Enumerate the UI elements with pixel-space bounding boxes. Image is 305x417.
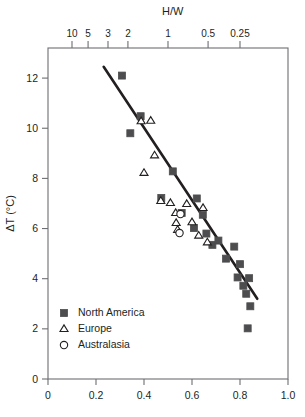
data-point <box>203 230 210 237</box>
top-tick-label: 3 <box>105 28 111 39</box>
y-tick-label: 10 <box>26 122 38 134</box>
x-tick-label: 0.6 <box>185 389 200 401</box>
data-point <box>246 275 253 282</box>
data-point <box>183 200 191 207</box>
data-point <box>188 218 196 225</box>
data-points <box>118 72 253 332</box>
data-point <box>147 117 155 124</box>
legend-label: Australasia <box>78 338 130 350</box>
legend-marker <box>61 310 68 317</box>
legend-marker <box>60 341 67 348</box>
top-axis-label: H/W <box>162 5 184 17</box>
x-tick-label: 0.8 <box>233 389 248 401</box>
top-tick-label: 5 <box>85 28 91 39</box>
chart-figure: H/W ΔT (°C) 1053210.50.25 00.20.40.60.81… <box>0 0 305 417</box>
data-point <box>166 199 174 206</box>
top-tick-label: 0.5 <box>201 28 215 39</box>
top-tick-label: 10 <box>66 28 78 39</box>
x-tick-label: 0.4 <box>137 389 152 401</box>
data-point <box>151 151 159 158</box>
top-tick-label: 2 <box>125 28 131 39</box>
data-point <box>237 261 244 268</box>
data-point <box>223 255 230 262</box>
data-point <box>195 231 203 238</box>
data-point <box>234 274 241 281</box>
data-point <box>177 210 184 217</box>
data-point <box>118 72 125 79</box>
y-tick-label: 0 <box>32 373 38 385</box>
x-axis-ticks: 00.20.40.60.81.0 <box>45 379 295 401</box>
legend-label: Europe <box>78 322 112 334</box>
x-tick-label: 0 <box>45 389 51 401</box>
data-point <box>199 211 206 218</box>
data-point <box>243 290 250 297</box>
data-point <box>169 168 176 175</box>
scatter-plot-svg: H/W ΔT (°C) 1053210.50.25 00.20.40.60.81… <box>0 0 305 417</box>
legend-label: North America <box>78 306 145 318</box>
top-axis-ticks: 1053210.50.25 <box>66 28 250 48</box>
legend-marker <box>60 325 68 332</box>
y-tick-label: 6 <box>32 222 38 234</box>
data-point <box>199 204 207 211</box>
y-tick-label: 2 <box>32 322 38 334</box>
top-tick-label: 0.25 <box>230 28 250 39</box>
trend-line <box>104 67 258 299</box>
data-point <box>127 130 134 137</box>
data-point <box>193 195 200 202</box>
y-tick-label: 12 <box>26 72 38 84</box>
top-tick-label: 1 <box>165 28 171 39</box>
data-point <box>140 169 148 176</box>
y-axis-ticks: 024681012 <box>26 72 48 385</box>
x-tick-label: 0.2 <box>89 389 104 401</box>
x-tick-label: 1.0 <box>281 389 296 401</box>
data-point <box>231 243 238 250</box>
data-point <box>244 325 251 332</box>
data-point <box>172 219 180 226</box>
y-tick-label: 8 <box>32 172 38 184</box>
data-point <box>190 225 197 232</box>
data-point <box>215 237 222 244</box>
data-point <box>240 282 247 289</box>
y-tick-label: 4 <box>32 272 38 284</box>
y-axis-label: ΔT (°C) <box>4 195 16 232</box>
data-point <box>247 303 254 310</box>
chart-legend: North AmericaEuropeAustralasia <box>60 306 145 350</box>
data-point <box>176 229 183 236</box>
